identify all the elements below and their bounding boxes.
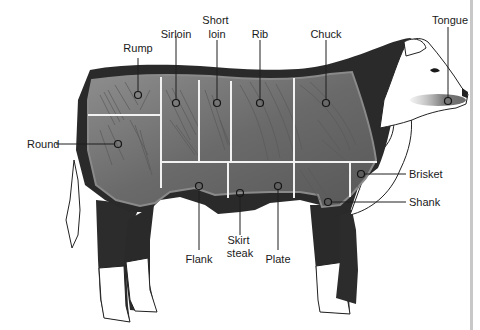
label-rib: Rib: [252, 28, 269, 40]
beef-cuts-diagram: Rump Sirloin Short loin Rib Chuck Tongue…: [0, 0, 480, 330]
label-plate: Plate: [265, 253, 290, 265]
label-shank: Shank: [409, 196, 441, 208]
label-chuck: Chuck: [310, 28, 342, 40]
label-short-loin: Short loin: [202, 14, 231, 40]
label-tongue: Tongue: [432, 14, 468, 26]
label-rump: Rump: [123, 42, 152, 54]
tongue-region: [410, 94, 466, 106]
label-skirt-steak: Skirt steak: [227, 234, 254, 259]
label-round: Round: [27, 138, 59, 150]
cow-tail: [66, 160, 80, 248]
label-flank: Flank: [186, 253, 213, 265]
label-brisket: Brisket: [409, 168, 443, 180]
page-edge-bar: [470, 0, 473, 330]
label-sirloin: Sirloin: [161, 28, 192, 40]
